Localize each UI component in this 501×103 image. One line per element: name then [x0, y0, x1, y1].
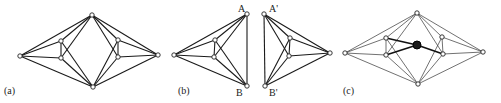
graph-edge: [214, 14, 247, 57]
panel-a-graph: [18, 13, 160, 89]
graph-edge: [264, 14, 289, 56]
node-label-b: B: [236, 87, 243, 98]
graph-node: [343, 51, 347, 55]
graph-node: [245, 12, 249, 16]
graph-edge: [118, 55, 158, 57]
panel-c-label: (c): [343, 85, 354, 97]
graph-node: [245, 84, 249, 88]
graph-node: [263, 84, 267, 88]
panel-b-right-graph: [262, 12, 332, 88]
graph-edge: [265, 38, 290, 86]
graph-edge: [265, 53, 330, 86]
graph-node: [440, 35, 444, 39]
graph-node: [116, 38, 120, 42]
graph-edge: [345, 53, 386, 55]
graph-edge: [443, 52, 483, 54]
node-label-a: A: [238, 3, 246, 14]
graph-edge: [93, 57, 118, 87]
graph-node: [91, 85, 95, 89]
graph-edge: [215, 14, 247, 40]
graph-node: [481, 50, 485, 54]
graph-node: [213, 38, 217, 42]
graph-edge: [93, 40, 118, 87]
graph-node: [287, 54, 291, 58]
graph-edge: [264, 14, 290, 38]
node-label-a-prime: A': [269, 3, 278, 14]
panel-b-left-graph: [172, 12, 249, 88]
graph-node: [415, 11, 419, 15]
graph-node: [116, 55, 120, 59]
graph-edge: [93, 55, 158, 87]
graph-edge: [290, 38, 330, 53]
graph-edge: [418, 52, 483, 84]
graph-edge: [20, 15, 92, 56]
graph-node: [416, 82, 420, 86]
graph-edge: [345, 13, 417, 53]
graph-edge: [417, 13, 483, 52]
graph-edge: [20, 41, 61, 56]
graph-edge: [20, 56, 61, 58]
graph-edge: [174, 55, 214, 57]
graph-edge: [61, 58, 93, 87]
graph-edge: [417, 13, 442, 37]
node-label-b-prime: B': [269, 87, 278, 98]
center-node-filled: [413, 41, 421, 49]
graph-edge: [174, 40, 215, 55]
graph-edge: [442, 37, 483, 52]
panel-b-label: (b): [178, 85, 190, 97]
graph-node: [18, 54, 22, 58]
graph-node: [328, 51, 332, 55]
graph-node: [172, 53, 176, 57]
graph-node: [90, 13, 94, 17]
graph-node: [288, 36, 292, 40]
bold-edge-to-center: [386, 45, 417, 55]
graph-node: [441, 52, 445, 56]
graph-edge: [265, 56, 289, 86]
graph-figure: (a) (b) (c) A B A' B': [0, 0, 501, 103]
graph-node: [59, 56, 63, 60]
graph-node: [384, 36, 388, 40]
graph-node: [262, 12, 266, 16]
graph-node: [59, 39, 63, 43]
graph-edge: [417, 13, 443, 54]
graph-edge: [92, 15, 158, 55]
graph-edge: [264, 14, 265, 86]
panel-a-label: (a): [4, 85, 15, 97]
graph-edge: [264, 14, 330, 53]
graph-edge: [418, 54, 443, 84]
panel-c-graph: [343, 11, 485, 86]
graph-node: [212, 55, 216, 59]
graph-edge: [418, 37, 442, 84]
graph-node: [384, 53, 388, 57]
bold-edge-to-center: [386, 38, 417, 45]
graph-edge: [174, 14, 247, 55]
graph-edge: [386, 55, 418, 84]
graph-node: [156, 53, 160, 57]
graph-edge: [345, 38, 386, 53]
